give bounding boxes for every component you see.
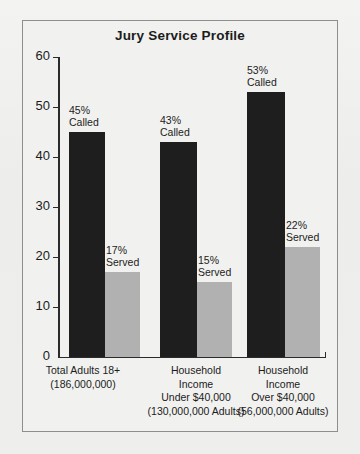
data-label-served-group-3-name: Served [286, 231, 319, 243]
bar-called-group-2[interactable] [160, 142, 197, 357]
bar-called-group-1[interactable] [69, 132, 105, 357]
y-tick-label-40: 40 [22, 148, 50, 163]
category-label-group-3-line-3: Over $40,000 [228, 391, 338, 405]
data-label-called-group-2-name: Called [160, 126, 190, 138]
data-label-called-group-3-name: Called [247, 76, 277, 88]
data-label-called-group-1-pct: 45% [69, 104, 90, 116]
category-label-group-1-line-1: Total Adults 18+ [28, 364, 138, 378]
y-tick-label-30: 30 [22, 198, 50, 213]
data-label-served-group-1-pct: 17% [106, 244, 127, 256]
data-label-served-group-1-name: Served [106, 256, 139, 268]
bar-called-group-3[interactable] [247, 92, 285, 357]
bars-container [58, 57, 326, 357]
y-tick-label-20: 20 [22, 248, 50, 263]
y-tick-label-50: 50 [22, 98, 50, 113]
data-label-served-group-3-pct: 22% [286, 219, 307, 231]
y-tick-label-60: 60 [22, 48, 50, 63]
y-tick-label-10: 10 [22, 298, 50, 313]
category-label-group-3-line-2: Income [228, 378, 338, 392]
y-tick-label-0: 0 [22, 348, 50, 363]
data-label-served-group-2-pct: 15% [198, 254, 219, 266]
bar-served-group-2[interactable] [197, 282, 232, 357]
chart-plot-area: 60 50 40 30 20 10 0 45% Called 17% Serve… [0, 0, 360, 454]
data-label-called-group-1-name: Called [69, 116, 99, 128]
data-label-served-group-2-name: Served [198, 266, 231, 278]
data-label-called-group-2-pct: 43% [160, 114, 181, 126]
data-label-called-group-3-pct: 53% [247, 64, 268, 76]
category-label-group-1-line-2: (186,000,000) [28, 378, 138, 392]
category-label-group-3-line-1: Household [228, 364, 338, 378]
bar-served-group-3[interactable] [285, 247, 320, 357]
category-label-group-3-line-4: (56,000,000 Adults) [224, 405, 342, 419]
bar-served-group-1[interactable] [105, 272, 140, 357]
